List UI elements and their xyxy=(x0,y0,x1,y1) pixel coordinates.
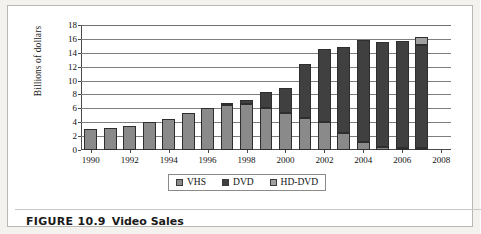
caption-divider xyxy=(15,209,481,210)
bar-group xyxy=(299,25,312,150)
bar-segment-vhs xyxy=(260,108,273,150)
x-tick-mark xyxy=(363,150,364,153)
chart-legend: VHSDVDHD-DVD xyxy=(168,174,326,191)
x-tick-label: 1992 xyxy=(121,155,139,165)
x-tick-mark xyxy=(324,150,325,153)
x-axis-ticks: 1990199219941996199820002002200420062008 xyxy=(81,152,451,168)
bar-segment-dvd xyxy=(376,42,389,147)
y-tick-label: 6 xyxy=(73,104,78,113)
x-tick-label: 1994 xyxy=(160,155,178,165)
bar-segment-vhs xyxy=(376,147,389,150)
bar-group xyxy=(104,25,117,150)
bar-group xyxy=(182,25,195,150)
bar-group xyxy=(221,25,234,150)
bars xyxy=(81,25,451,150)
bar-segment-vhs xyxy=(84,129,97,150)
bar-group xyxy=(357,25,370,150)
x-tick-mark xyxy=(130,150,131,153)
bar-segment-dvd xyxy=(318,49,331,122)
bar-group xyxy=(123,25,136,150)
figure-caption: FIGURE 10.9 Video Sales xyxy=(26,215,184,228)
x-tick-label: 1990 xyxy=(82,155,100,165)
x-tick-mark xyxy=(441,150,442,153)
legend-entry-dvd: DVD xyxy=(222,177,254,187)
bar-group xyxy=(162,25,175,150)
y-tick-label: 2 xyxy=(73,132,78,141)
bar-segment-vhs xyxy=(123,126,136,150)
legend-label: HD-DVD xyxy=(281,177,318,187)
caption-number: FIGURE 10.9 xyxy=(26,215,106,228)
bar-segment-vhs xyxy=(143,122,156,150)
caption-title: Video Sales xyxy=(112,215,184,228)
bar-segment-vhs xyxy=(318,122,331,150)
bar-group xyxy=(279,25,292,150)
bar-segment-vhs xyxy=(240,104,253,150)
x-tick-mark xyxy=(285,150,286,153)
bar-segment-dvd xyxy=(337,47,350,132)
bar-group xyxy=(376,25,389,150)
legend-entry-hd-dvd: HD-DVD xyxy=(270,177,318,187)
video-sales-chart: Billions of dollars 024681012141618 1990… xyxy=(8,8,474,168)
figure-panel: Billions of dollars 024681012141618 1990… xyxy=(7,5,473,227)
bar-segment-hd-dvd xyxy=(415,37,428,45)
bar-segment-vhs xyxy=(182,113,195,150)
y-tick-label: 10 xyxy=(68,76,77,85)
bar-segment-vhs xyxy=(104,128,117,150)
bar-group xyxy=(396,25,409,150)
bar-group xyxy=(240,25,253,150)
x-tick-label: 2006 xyxy=(393,155,411,165)
x-tick-label: 1996 xyxy=(199,155,217,165)
legend-label: VHS xyxy=(187,177,206,187)
y-tick-label: 12 xyxy=(68,62,77,71)
y-tick-label: 4 xyxy=(73,118,78,127)
x-tick-label: 2004 xyxy=(354,155,372,165)
bar-segment-vhs xyxy=(299,118,312,150)
bar-group xyxy=(84,25,97,150)
bar-segment-dvd xyxy=(299,64,312,118)
legend-label: DVD xyxy=(233,177,254,187)
legend-swatch-icon xyxy=(222,179,229,186)
bar-segment-dvd xyxy=(260,92,273,108)
bar-segment-vhs xyxy=(201,108,214,150)
bar-group xyxy=(201,25,214,150)
y-tick-label: 18 xyxy=(68,21,77,30)
y-tick-label: 16 xyxy=(68,34,77,43)
bar-segment-dvd xyxy=(221,103,234,105)
legend-swatch-icon xyxy=(176,179,183,186)
bar-group xyxy=(260,25,273,150)
bar-segment-dvd xyxy=(396,41,409,148)
bar-group xyxy=(143,25,156,150)
plot-area: 024681012141618 xyxy=(81,25,451,150)
bar-group xyxy=(318,25,331,150)
x-tick-label: 2002 xyxy=(315,155,333,165)
bar-segment-dvd xyxy=(240,100,253,104)
y-tick-label: 8 xyxy=(73,90,78,99)
x-tick-label: 2000 xyxy=(276,155,294,165)
x-tick-mark xyxy=(402,150,403,153)
legend-swatch-icon xyxy=(270,179,277,186)
y-tick-label: 14 xyxy=(68,48,77,57)
y-tick-mark xyxy=(78,150,81,151)
y-tick-label: 0 xyxy=(73,146,78,155)
x-tick-label: 1998 xyxy=(238,155,256,165)
bar-segment-vhs xyxy=(357,142,370,150)
y-axis-title: Billions of dollars xyxy=(33,6,43,116)
legend-entry-vhs: VHS xyxy=(176,177,206,187)
bar-segment-vhs xyxy=(337,133,350,150)
bar-segment-dvd xyxy=(415,45,428,148)
bar-segment-dvd xyxy=(357,40,370,142)
x-tick-mark xyxy=(247,150,248,153)
x-tick-mark xyxy=(208,150,209,153)
bar-segment-vhs xyxy=(415,148,428,150)
x-tick-label: 2008 xyxy=(432,155,450,165)
bar-segment-vhs xyxy=(162,119,175,150)
bar-segment-dvd xyxy=(279,88,292,113)
bar-group xyxy=(415,25,428,150)
bar-segment-vhs xyxy=(221,105,234,150)
x-tick-mark xyxy=(169,150,170,153)
x-tick-mark xyxy=(91,150,92,153)
bar-group xyxy=(337,25,350,150)
bar-segment-vhs xyxy=(279,113,292,150)
